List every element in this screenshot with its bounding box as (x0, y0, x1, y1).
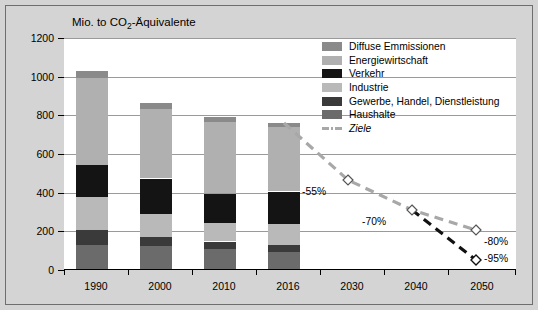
legend-label-haushalte: Haushalte (349, 109, 395, 120)
ytick-800 (58, 115, 64, 116)
ytick-600 (58, 154, 64, 155)
ylabel-1000: 1000 (8, 71, 54, 83)
xtick-6 (448, 270, 449, 275)
xlabel-2010: 2010 (194, 280, 254, 292)
legend-swatch-haushalte (322, 110, 342, 119)
annotation-minus-70: -70% (362, 216, 386, 227)
ylabel-400: 400 (8, 187, 54, 199)
title-prefix: Mio. to CO (72, 16, 127, 28)
ytick-400 (58, 193, 64, 194)
xlabel-2040: 2040 (386, 280, 446, 292)
xlabel-2016: 2016 (258, 280, 318, 292)
chart-title: Mio. to CO2-Äquivalente (72, 16, 196, 31)
xtick-start (64, 270, 65, 275)
legend-item-industrie: Industrie (322, 81, 528, 95)
xtick-4 (320, 270, 321, 275)
xtick-1 (128, 270, 129, 275)
chart-legend: Diffuse Emmissionen Energiewirtschaft Ve… (322, 40, 528, 135)
ytick-1200 (58, 38, 64, 39)
ytick-1000 (58, 77, 64, 78)
legend-swatch-ziele (322, 124, 342, 133)
legend-swatch-gewerbe (322, 97, 342, 106)
legend-swatch-verkehr (322, 69, 342, 78)
title-suffix: -Äquivalente (132, 16, 196, 28)
annotation-minus-95: -95% (484, 253, 508, 264)
legend-item-energiewirtschaft: Energiewirtschaft (322, 54, 528, 68)
xlabel-2030: 2030 (322, 280, 382, 292)
ylabel-0: 0 (8, 264, 54, 276)
chart-figure: Mio. to CO2-Äquivalente (0, 0, 538, 310)
ylabel-200: 200 (8, 225, 54, 237)
xtick-3 (256, 270, 257, 275)
ylabel-1200: 1200 (8, 32, 54, 44)
legend-item-gewerbe: Gewerbe, Handel, Dienstleistung (322, 94, 528, 108)
annotation-minus-80: -80% (484, 236, 508, 247)
xlabel-2000: 2000 (130, 280, 190, 292)
legend-item-ziele: Ziele (322, 122, 528, 136)
legend-label-industrie: Industrie (349, 82, 389, 93)
legend-item-haushalte: Haushalte (322, 108, 528, 122)
target-marker-2050-upper (471, 225, 481, 235)
legend-item-diffuse: Diffuse Emmissionen (322, 40, 528, 54)
legend-swatch-industrie (322, 83, 342, 92)
target-line-lower (412, 210, 476, 260)
xlabel-1990: 1990 (66, 280, 126, 292)
xtick-5 (384, 270, 385, 275)
target-line-upper (284, 123, 476, 230)
legend-label-gewerbe: Gewerbe, Handel, Dienstleistung (349, 96, 500, 107)
xlabel-2050: 2050 (452, 280, 512, 292)
legend-item-verkehr: Verkehr (322, 67, 528, 81)
ylabel-600: 600 (8, 148, 54, 160)
legend-swatch-energiewirtschaft (322, 56, 342, 65)
annotation-minus-55: -55% (302, 186, 326, 197)
ylabel-800: 800 (8, 109, 54, 121)
legend-label-energiewirtschaft: Energiewirtschaft (349, 55, 428, 66)
xtick-2 (192, 270, 193, 275)
legend-label-diffuse: Diffuse Emmissionen (349, 41, 446, 52)
legend-swatch-diffuse (322, 42, 342, 51)
xtick-end (515, 270, 516, 275)
legend-label-verkehr: Verkehr (349, 68, 385, 79)
ytick-200 (58, 231, 64, 232)
legend-label-ziele: Ziele (349, 123, 371, 134)
